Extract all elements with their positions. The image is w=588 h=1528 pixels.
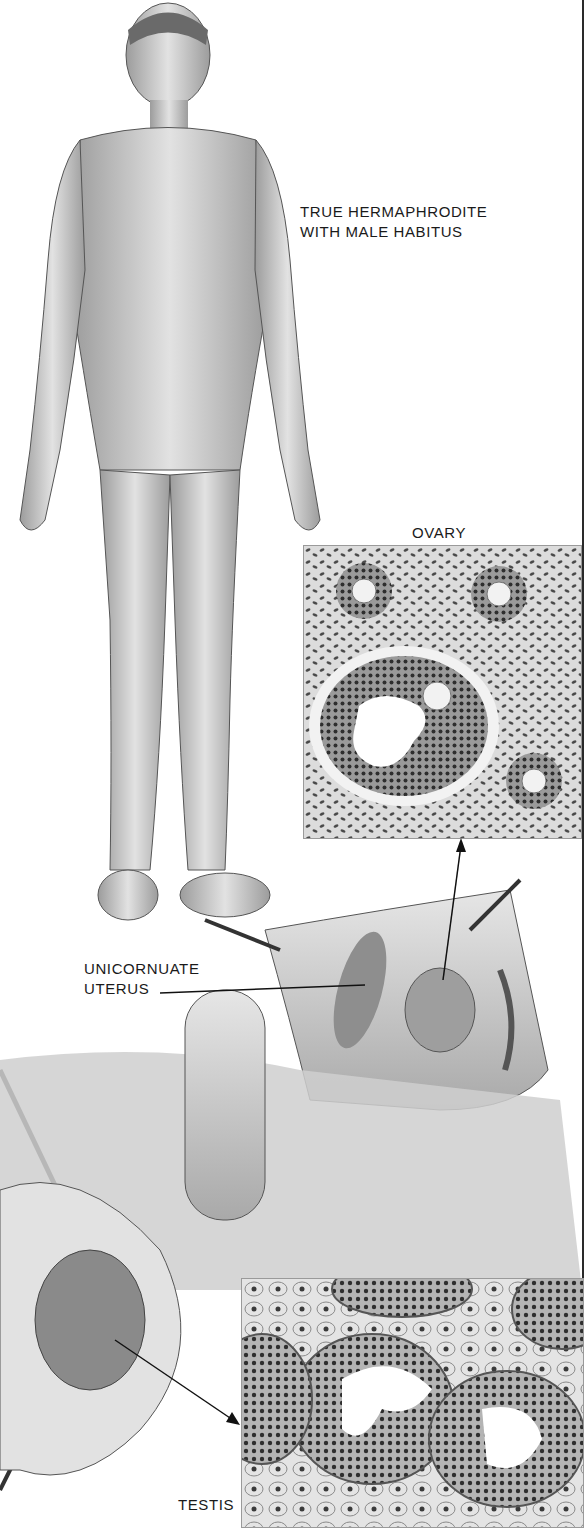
arrowhead-down-icon: [226, 1412, 240, 1425]
testis-histology-inset: [241, 1278, 584, 1528]
testis-label: TESTIS: [178, 1496, 234, 1514]
arrowhead-up-icon: [456, 838, 466, 852]
